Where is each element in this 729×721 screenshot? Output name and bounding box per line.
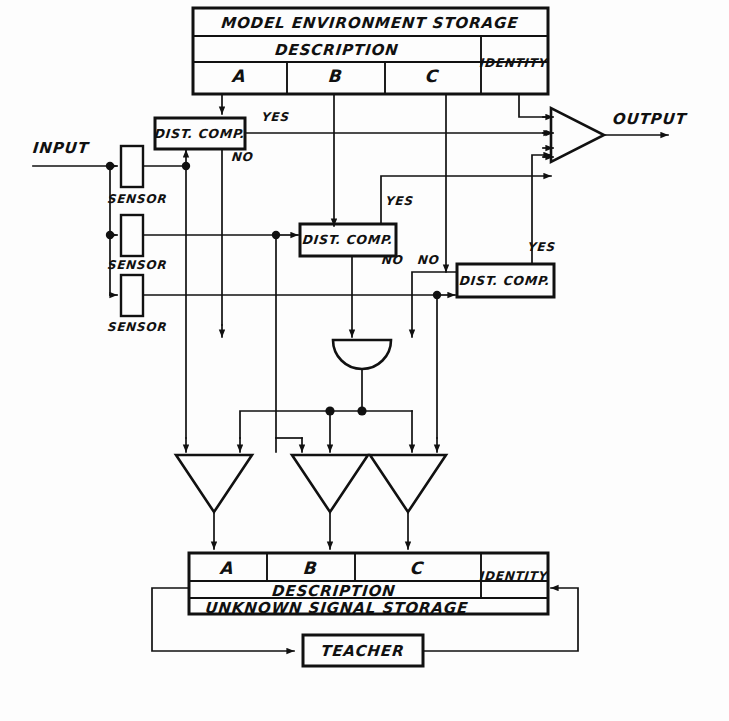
sensor-boxes [121, 146, 143, 316]
teacher-label: TEACHER [320, 642, 405, 660]
comparator-3-label: DIST. COMP. [459, 273, 551, 288]
unknown-storage-column-b: B [303, 558, 319, 578]
diagram-canvas: MODEL ENVIRONMENT STORAGE DESCRIPTION ID… [0, 0, 729, 721]
model-storage-column-c: C [425, 66, 441, 86]
comparator-2-yes-label: YES [385, 194, 414, 208]
writer-gate-shapes [176, 455, 446, 512]
writer-gate-inputs [186, 438, 437, 452]
comparator-1-no-label: NO [231, 150, 254, 164]
comparator-1-label: DIST. COMP. [154, 126, 246, 141]
comparator-1-yes-label: YES [261, 110, 290, 124]
output-label: OUTPUT [612, 110, 688, 128]
unknown-storage-column-a: A [220, 558, 236, 578]
comparator-3-no-label: NO [417, 253, 440, 267]
model-storage-column-b: B [328, 66, 344, 86]
input-label: INPUT [32, 139, 90, 157]
or-gate-output [240, 369, 412, 452]
model-storage-identity-label: IDENTITY [479, 56, 548, 70]
comparator-3-yes-label: YES [527, 240, 556, 254]
unknown-storage-title: UNKNOWN SIGNAL STORAGE [205, 599, 470, 617]
model-storage-description-label: DESCRIPTION [274, 41, 400, 59]
unknown-storage-description-label: DESCRIPTION [271, 582, 397, 600]
model-storage-title: MODEL ENVIRONMENT STORAGE [220, 14, 519, 32]
comparator-2-label: DIST. COMP. [302, 232, 394, 247]
input-bus [33, 162, 117, 295]
writer-gate-outputs [214, 512, 408, 549]
comparator-boxes [155, 118, 554, 297]
comparator-2-no-label: NO [381, 253, 404, 267]
output-gate-shape [551, 108, 604, 162]
sensor-1-label: SENSOR [107, 192, 168, 206]
unknown-storage-identity-label: IDENTITY [479, 569, 548, 583]
sensor-3-label: SENSOR [107, 320, 168, 334]
unknown-storage-column-c: C [410, 558, 426, 578]
or-gate-shape [333, 340, 391, 369]
model-storage-column-a: A [232, 66, 248, 86]
sensor-2-label: SENSOR [107, 258, 168, 272]
